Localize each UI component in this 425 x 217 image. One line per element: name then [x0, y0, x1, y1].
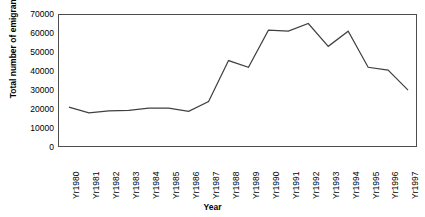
x-tick-Yr1984: Yr1984: [151, 172, 161, 199]
x-tick-Yr1990: Yr1990: [271, 172, 281, 199]
x-tick-Yr1983: Yr1983: [131, 172, 141, 199]
x-tick-Yr1982: Yr1982: [111, 172, 121, 199]
y-tick-50000: 50000: [8, 47, 54, 57]
x-tick-Yr1988: Yr1988: [231, 172, 241, 199]
series-line-total-emigrants: [59, 15, 418, 148]
x-tick-Yr1996: Yr1996: [390, 172, 400, 199]
y-tick-20000: 20000: [8, 104, 54, 114]
plot-area: [58, 14, 417, 147]
x-tick-Yr1991: Yr1991: [291, 172, 301, 199]
y-tick-40000: 40000: [8, 66, 54, 76]
y-tick-10000: 10000: [8, 123, 54, 133]
x-tick-Yr1986: Yr1986: [191, 172, 201, 199]
x-tick-Yr1985: Yr1985: [171, 172, 181, 199]
emigrants-line-chart: Total number of emigrants 01000020000300…: [0, 0, 425, 217]
x-axis-title: Year: [0, 202, 425, 212]
x-tick-Yr1981: Yr1981: [91, 172, 101, 199]
x-tick-Yr1989: Yr1989: [251, 172, 261, 199]
x-tick-Yr1997: Yr1997: [410, 172, 420, 199]
y-tick-30000: 30000: [8, 85, 54, 95]
y-axis-tick-labels: 010000200003000040000500006000070000: [0, 0, 54, 217]
y-tick-70000: 70000: [8, 9, 54, 19]
x-tick-Yr1993: Yr1993: [331, 172, 341, 199]
x-tick-Yr1980: Yr1980: [71, 172, 81, 199]
y-tick-60000: 60000: [8, 28, 54, 38]
x-tick-Yr1987: Yr1987: [211, 172, 221, 199]
y-tick-0: 0: [8, 142, 54, 152]
x-tick-Yr1992: Yr1992: [311, 172, 321, 199]
x-tick-Yr1994: Yr1994: [351, 172, 361, 199]
x-tick-Yr1995: Yr1995: [371, 172, 381, 199]
